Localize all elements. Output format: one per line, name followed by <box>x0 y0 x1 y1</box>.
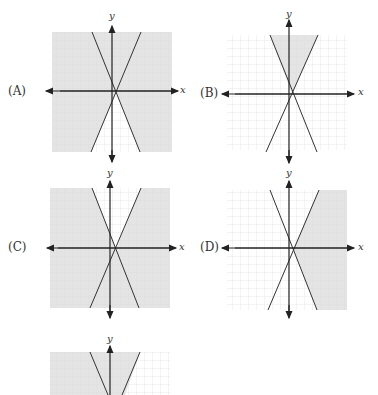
graph-c <box>47 181 176 318</box>
graph-a-label: (A) <box>8 84 26 98</box>
graph-d-label: (D) <box>200 240 219 254</box>
graph-d-y-label: y <box>286 167 292 178</box>
graphs-canvas <box>0 0 378 395</box>
graph-b-x-label: x <box>358 86 364 97</box>
graph-b-y-label: y <box>286 8 292 19</box>
graph-c-label: (C) <box>8 240 27 254</box>
graph-a-x-label: x <box>180 84 186 95</box>
graph-c-y-label: y <box>107 167 113 178</box>
graph-c-x-label: x <box>179 241 185 252</box>
graph-a-y-label: y <box>109 10 115 21</box>
graph-e <box>50 346 170 395</box>
graph-e-y-label: y <box>107 333 113 344</box>
graph-b-label: (B) <box>200 86 218 100</box>
graph-d-x-label: x <box>358 241 364 252</box>
graph-d <box>222 181 354 318</box>
graph-b <box>222 20 354 163</box>
graph-a <box>46 26 178 162</box>
